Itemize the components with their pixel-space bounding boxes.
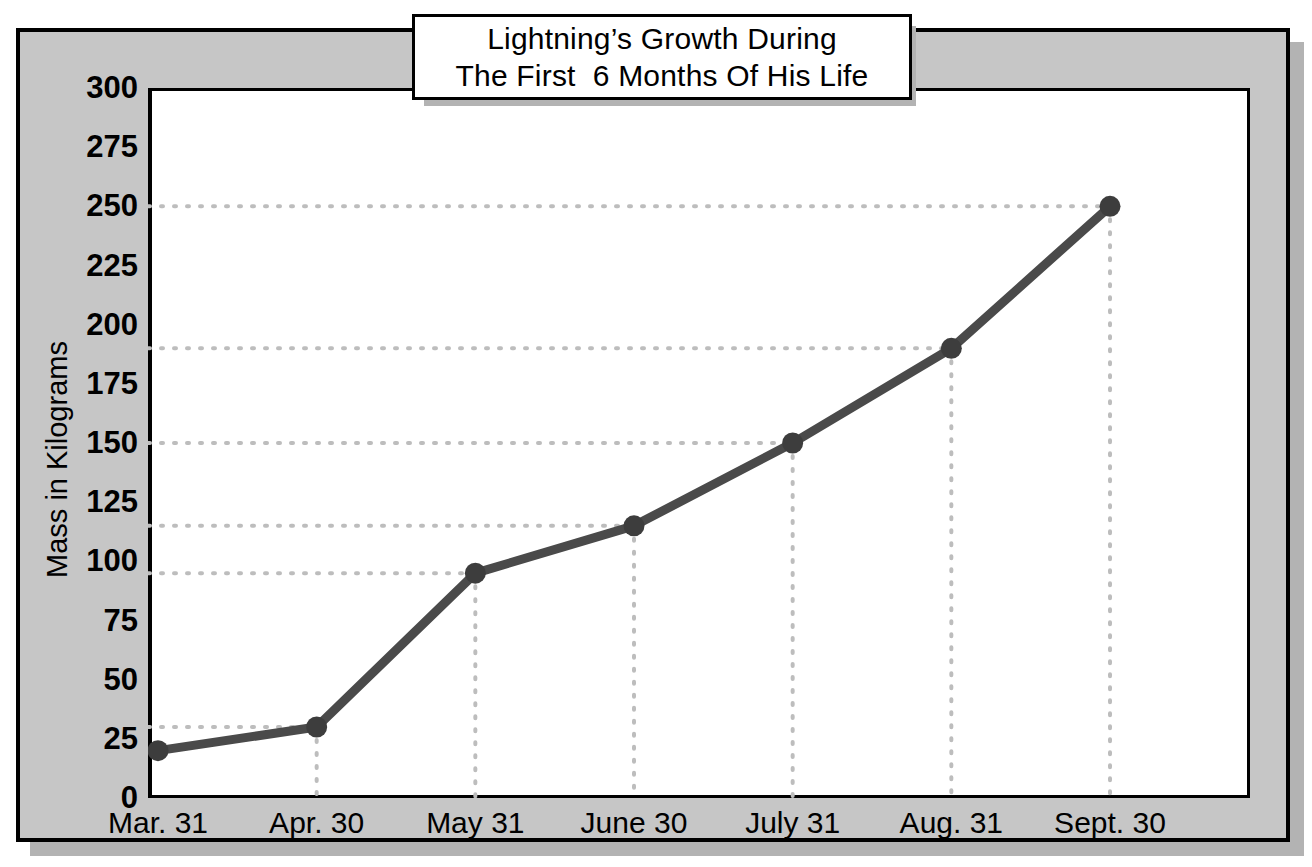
y-tick-label: 125 (86, 484, 138, 520)
x-tick-label: Aug. 31 (900, 806, 1003, 840)
y-tick-label: 300 (86, 70, 138, 106)
x-tick-label: June 30 (581, 806, 688, 840)
data-point-marker (1100, 196, 1121, 217)
y-tick-label: 50 (104, 662, 138, 698)
chart-title-box: Lightning’s Growth During The First 6 Mo… (412, 14, 912, 100)
x-tick-label: July 31 (745, 806, 840, 840)
data-point-marker (624, 515, 645, 536)
y-tick-label: 25 (104, 721, 138, 757)
y-tick-label: 225 (86, 248, 138, 284)
y-tick-label: 250 (86, 188, 138, 224)
data-point-marker (941, 338, 962, 359)
y-tick-label: 150 (86, 425, 138, 461)
data-point-marker (148, 740, 169, 761)
x-tick-label: May 31 (426, 806, 524, 840)
x-tick-label: Sept. 30 (1054, 806, 1166, 840)
y-tick-label: 100 (86, 543, 138, 579)
y-tick-label: 275 (86, 129, 138, 165)
chart-title-line-2: The First 6 Months Of His Life (456, 57, 869, 94)
y-axis-title: Mass in Kilograms (41, 300, 74, 620)
data-point-marker (465, 563, 486, 584)
x-tick-label: Apr. 30 (269, 806, 364, 840)
y-tick-label: 75 (104, 603, 138, 639)
line-chart-plot (148, 88, 1250, 798)
chart-title-line-1: Lightning’s Growth During (487, 20, 837, 57)
chart-figure: 0255075100125150175200225250275300 Mar. … (0, 0, 1312, 867)
grid-guides (148, 206, 1110, 798)
data-markers (148, 196, 1121, 761)
data-point-marker (306, 717, 327, 738)
y-tick-label: 200 (86, 307, 138, 343)
y-tick-label: 175 (86, 366, 138, 402)
data-point-marker (782, 433, 803, 454)
x-tick-label: Mar. 31 (108, 806, 208, 840)
